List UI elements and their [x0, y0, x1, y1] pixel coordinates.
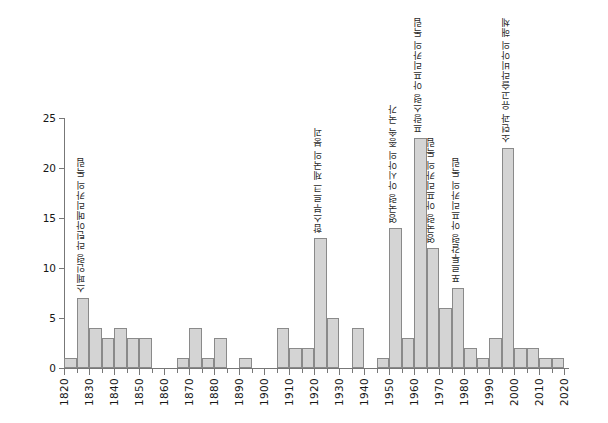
x-tick [564, 368, 565, 375]
x-tick [489, 368, 490, 375]
x-tick-minor [427, 368, 428, 373]
x-tick-label: 1900 [258, 378, 270, 406]
bar [289, 348, 302, 368]
bar [539, 358, 552, 368]
bar-annotation: 포르투갈령 아프리카의 독립 [452, 157, 462, 283]
bar-annotation: 스페인령 라틴아메리카의 독립 [77, 157, 87, 293]
bar [77, 298, 90, 368]
x-tick-minor [452, 368, 453, 373]
x-tick-label: 1990 [483, 378, 495, 406]
x-tick [389, 368, 390, 375]
x-tick-label: 1820 [58, 378, 70, 406]
bar [127, 338, 140, 368]
x-tick [464, 368, 465, 375]
bar [202, 358, 215, 368]
bar [439, 308, 452, 368]
x-tick-minor [252, 368, 253, 373]
x-tick [114, 368, 115, 375]
x-tick-label: 1880 [208, 378, 220, 406]
x-tick-minor [477, 368, 478, 373]
y-tick [59, 218, 64, 219]
bar [514, 348, 527, 368]
bar [139, 338, 152, 368]
bar [352, 328, 365, 368]
x-tick-label: 1890 [233, 378, 245, 406]
y-tick-label: 5 [49, 312, 56, 324]
x-tick [339, 368, 340, 375]
y-tick-label: 10 [43, 262, 56, 274]
y-tick-label: 25 [43, 112, 56, 124]
x-tick [239, 368, 240, 375]
bar-annotation: 영국령 아프리카의 독립 [427, 137, 437, 243]
x-tick-label: 1850 [133, 378, 145, 406]
x-tick-label: 1940 [358, 378, 370, 406]
x-tick [514, 368, 515, 375]
bar [377, 358, 390, 368]
x-tick [289, 368, 290, 375]
y-axis-line [64, 118, 65, 368]
x-tick [414, 368, 415, 375]
x-tick-label: 1950 [383, 378, 395, 406]
x-tick-label: 2020 [558, 378, 570, 406]
bar [414, 138, 427, 368]
plot-area: 0510152025 18201830184018501860187018801… [64, 118, 569, 368]
bar [464, 348, 477, 368]
bar [477, 358, 490, 368]
bar [452, 288, 465, 368]
x-tick-minor [302, 368, 303, 373]
x-tick-minor [152, 368, 153, 373]
y-tick [59, 318, 64, 319]
y-tick [59, 118, 64, 119]
x-tick [364, 368, 365, 375]
bar-annotation: 프랑스령 아프리카의 독립 [414, 17, 424, 133]
x-tick [214, 368, 215, 375]
y-tick [59, 168, 64, 169]
x-tick-label: 1930 [333, 378, 345, 406]
x-tick-label: 1960 [408, 378, 420, 406]
x-tick-label: 1920 [308, 378, 320, 406]
x-tick-minor [377, 368, 378, 373]
bar [214, 338, 227, 368]
bar [427, 248, 440, 368]
x-tick-minor [327, 368, 328, 373]
bar [402, 338, 415, 368]
bar [102, 338, 115, 368]
x-tick-label: 1840 [108, 378, 120, 406]
x-tick-minor [352, 368, 353, 373]
bar [502, 148, 515, 368]
bar [177, 358, 190, 368]
bar [314, 238, 327, 368]
x-tick-minor [277, 368, 278, 373]
bar [552, 358, 565, 368]
x-tick [189, 368, 190, 375]
x-tick-label: 1830 [83, 378, 95, 406]
x-tick [439, 368, 440, 375]
x-tick [64, 368, 65, 375]
bar-annotation: 합스부르크 제국의 붕괴 [314, 127, 324, 233]
bar [114, 328, 127, 368]
x-tick-label: 1910 [283, 378, 295, 406]
bar [277, 328, 290, 368]
x-tick-minor [502, 368, 503, 373]
x-tick-minor [227, 368, 228, 373]
bar [489, 338, 502, 368]
x-tick-minor [102, 368, 103, 373]
bar [527, 348, 540, 368]
x-tick-label: 1980 [458, 378, 470, 406]
bar [64, 358, 77, 368]
bar [302, 348, 315, 368]
x-tick-minor [527, 368, 528, 373]
x-tick-label: 2010 [533, 378, 545, 406]
x-tick [164, 368, 165, 375]
x-tick [89, 368, 90, 375]
y-tick-label: 0 [49, 362, 56, 374]
x-tick-minor [552, 368, 553, 373]
x-tick [264, 368, 265, 375]
x-tick-minor [402, 368, 403, 373]
y-tick-label: 20 [43, 162, 56, 174]
bar [239, 358, 252, 368]
x-tick-minor [202, 368, 203, 373]
bar-annotation: 소련과 유고슬라비아의 해체 [502, 17, 512, 143]
bar [389, 228, 402, 368]
bar-annotation: 영국령 아시아의 종속 국가 [389, 104, 399, 223]
